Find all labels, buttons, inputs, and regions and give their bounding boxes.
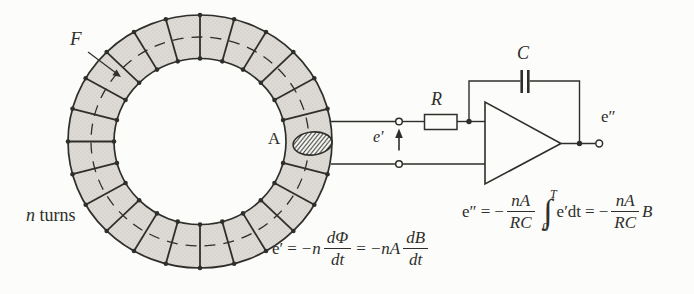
coil-turn-dot [291, 50, 296, 55]
equals-sign: = [585, 203, 595, 220]
coil-turn-dot [281, 118, 286, 123]
coil-turn-dot [123, 181, 128, 186]
coil-turn-dot [325, 172, 330, 177]
output-equation: e″ = − nA RC ∫ T 0 e′dt = − nA RC B [461, 192, 653, 231]
lower-input-terminal [396, 161, 403, 168]
coil-turn-dot [155, 211, 160, 216]
fraction-numerator: dΦ [324, 229, 351, 248]
equals-sign: = [356, 240, 366, 257]
coil-turn-dot [281, 161, 286, 166]
equals-sign: = [287, 240, 297, 257]
coil-turn-dot [137, 81, 142, 86]
emf-coef2: −nA [370, 240, 400, 257]
coil-turn-dot [232, 261, 237, 266]
na-rc-fraction: nA RC [507, 192, 535, 231]
fraction-numerator: nA [507, 192, 535, 211]
emf-equation: e′ = −n dΦ dt = −nA dB dt [271, 229, 430, 268]
coil-turn-dot [312, 76, 317, 81]
coil-turn-dot [312, 202, 317, 207]
output-voltage-label: e″ [601, 108, 616, 125]
coil-turn-dot [259, 81, 264, 86]
coil-turn-dot [66, 139, 71, 144]
fraction-numerator: dB [403, 229, 428, 248]
flux-density-symbol: B [642, 203, 652, 220]
coil-turn-dot [220, 59, 225, 64]
coil-turn-dot [70, 172, 75, 177]
coil-turn-dot [132, 30, 137, 35]
coil-turn-dot [137, 198, 142, 203]
input-voltage-label: e′ [373, 129, 384, 145]
coil-turn-dot [232, 17, 237, 22]
fraction-numerator: nA [611, 192, 639, 211]
output-junction-dot [577, 141, 582, 146]
turns-label: n turns [26, 206, 76, 224]
minus-sign: − [494, 203, 504, 220]
coil-turn-dot [264, 30, 269, 35]
coil-turn-dot [112, 139, 117, 144]
fraction-denominator: dt [403, 248, 428, 268]
integrand: e′dt [557, 203, 582, 220]
capacitor [522, 70, 529, 93]
fraction-denominator: RC [507, 211, 535, 231]
coil-turn-dot [241, 211, 246, 216]
coil-turn-dot [198, 56, 203, 61]
coil-turn-dot [104, 229, 109, 234]
coil-turn-dot [220, 219, 225, 224]
emf-coef1: −n [301, 240, 321, 257]
coil-turn-dot [272, 181, 277, 186]
na-rc-fraction: nA RC [611, 192, 639, 231]
coil-turn-dot [241, 67, 246, 72]
coil-turn-dot [83, 202, 88, 207]
coil-turn-dot [198, 266, 203, 271]
capacitor-label: C [517, 44, 529, 62]
out-lhs: e″ [462, 203, 477, 220]
integral: ∫ T 0 [544, 197, 553, 225]
resistor-label: R [431, 90, 442, 108]
equals-sign: = [481, 203, 491, 220]
dphi-dt-fraction: dΦ dt [324, 229, 351, 268]
coil-turn-dot [115, 118, 120, 123]
db-dt-fraction: dB dt [403, 229, 428, 268]
coil-turn-dot [164, 17, 169, 22]
coil-turn-dot [198, 13, 203, 18]
integral-lower-limit: 0 [543, 221, 549, 233]
coil-turn-dot [164, 261, 169, 266]
emf-lhs: e′ [272, 240, 283, 257]
coil-turn-dot [175, 219, 180, 224]
input-voltage-arrow [395, 129, 403, 151]
input-junction-dot [466, 119, 471, 124]
coil-turn-dot [198, 222, 203, 227]
fraction-denominator: RC [611, 211, 639, 231]
coil-turn-dot [104, 50, 109, 55]
area-label: A [268, 130, 280, 147]
fraction-denominator: dt [324, 248, 351, 268]
coil-turn-dot [155, 67, 160, 72]
circuit-wires [330, 81, 596, 164]
coil-turn-dot [325, 106, 330, 111]
coil-turn-dot [132, 249, 137, 254]
upper-input-terminal [396, 118, 403, 125]
turns-word: turns [40, 205, 76, 225]
integral-upper-limit: T [550, 188, 557, 200]
coil-turn-dot [123, 98, 128, 103]
turns-variable: n [26, 205, 35, 225]
coil-turn-dot [70, 106, 75, 111]
coil-turn-dot [115, 161, 120, 166]
opamp-triangle [485, 102, 561, 184]
resistor-body [425, 115, 458, 130]
coil-turn-dot [272, 98, 277, 103]
minus-sign: − [599, 203, 609, 220]
output-terminal [596, 140, 603, 147]
coil-turn-dot [264, 249, 269, 254]
rogowski-coil-integrator-diagram: F n turns A R C e′ e″ e′ = −n dΦ dt = −n… [0, 0, 694, 294]
coil-turn-dot [259, 198, 264, 203]
coil-turn-dot [175, 59, 180, 64]
flux-label: F [70, 29, 82, 48]
coil-turn-dot [83, 76, 88, 81]
